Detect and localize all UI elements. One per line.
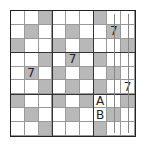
grid-cell[interactable] (39, 67, 53, 81)
grid-cell[interactable] (94, 53, 108, 67)
grid-cell[interactable] (66, 67, 80, 81)
grid-cell[interactable] (52, 122, 66, 136)
grid-cell[interactable] (25, 80, 39, 94)
grid-cell[interactable] (25, 108, 39, 122)
cell-value: B (96, 109, 104, 121)
grid-cell[interactable] (11, 25, 25, 39)
grid-cell[interactable] (80, 25, 94, 39)
grid-cell[interactable] (11, 122, 25, 136)
box-divider-vertical (52, 11, 54, 136)
grid-cell[interactable] (52, 67, 66, 81)
grid-cell[interactable] (25, 11, 39, 25)
grid-cell[interactable]: 7 (25, 67, 39, 81)
grid-cell[interactable] (80, 39, 94, 53)
grid-cell[interactable]: B (94, 108, 108, 122)
grid-cell[interactable] (66, 80, 80, 94)
grid-cell[interactable] (52, 11, 66, 25)
box-divider-horizontal (11, 94, 135, 96)
box-divider-vertical (93, 11, 95, 136)
grid-cell[interactable] (52, 94, 66, 108)
grid-cell[interactable] (52, 80, 66, 94)
grid-cell[interactable] (94, 11, 108, 25)
grid-cell[interactable] (39, 108, 53, 122)
grid-cell[interactable] (25, 25, 39, 39)
grid-cell[interactable] (52, 53, 66, 67)
grid-cell[interactable] (94, 122, 108, 136)
column-line-marker (128, 14, 129, 133)
grid-cell[interactable] (52, 108, 66, 122)
grid-cell[interactable] (66, 25, 80, 39)
grid-cell[interactable] (52, 39, 66, 53)
grid-cell[interactable] (80, 94, 94, 108)
grid-cell[interactable] (11, 108, 25, 122)
grid-cell[interactable] (66, 108, 80, 122)
grid-cell[interactable] (11, 94, 25, 108)
column-line-marker (114, 14, 115, 133)
grid-cell[interactable] (94, 25, 108, 39)
grid-cell[interactable] (25, 122, 39, 136)
grid-cell[interactable] (80, 11, 94, 25)
grid-cell[interactable] (11, 11, 25, 25)
grid-cell[interactable] (11, 39, 25, 53)
grid-cell[interactable] (66, 39, 80, 53)
grid-cell[interactable] (25, 94, 39, 108)
grid-cell[interactable] (39, 94, 53, 108)
grid-cell[interactable] (11, 53, 25, 67)
box-divider-horizontal (11, 52, 135, 54)
sudoku-board: 7777AB (10, 10, 136, 137)
cell-value: A (96, 95, 104, 107)
grid-cell[interactable] (39, 53, 53, 67)
grid-cell[interactable] (66, 94, 80, 108)
grid-cell[interactable] (80, 80, 94, 94)
grid-cell[interactable]: A (94, 94, 108, 108)
grid-cell[interactable] (11, 80, 25, 94)
grid-cell[interactable] (39, 39, 53, 53)
grid-cell[interactable] (25, 53, 39, 67)
grid-cell[interactable] (39, 25, 53, 39)
grid-cell[interactable] (11, 67, 25, 81)
grid-cell[interactable] (25, 39, 39, 53)
cell-value: 7 (69, 53, 77, 65)
grid-cell[interactable] (80, 108, 94, 122)
grid-cell[interactable] (52, 25, 66, 39)
grid-cell[interactable] (80, 122, 94, 136)
grid-cell[interactable] (94, 67, 108, 81)
grid-cell[interactable] (80, 67, 94, 81)
grid-cell[interactable]: 7 (66, 53, 80, 67)
cell-value: 7 (27, 67, 35, 79)
grid-cell[interactable] (94, 39, 108, 53)
grid-cell[interactable] (94, 80, 108, 94)
grid-cell[interactable] (39, 11, 53, 25)
grid-cell[interactable] (66, 122, 80, 136)
grid-cell[interactable] (39, 122, 53, 136)
grid-cell[interactable] (66, 11, 80, 25)
grid-cell[interactable] (80, 53, 94, 67)
grid-cell[interactable] (39, 80, 53, 94)
